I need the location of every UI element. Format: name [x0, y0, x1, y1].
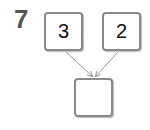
arrows: [0, 0, 150, 130]
right-arrow-icon: [96, 52, 118, 76]
left-arrow-icon: [66, 52, 92, 76]
